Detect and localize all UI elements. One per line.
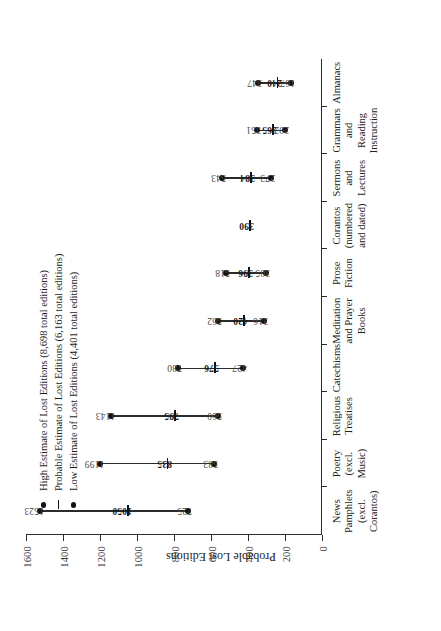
data-point-label: 562 — [207, 316, 222, 326]
y-axis-tick-label: 1400 — [58, 546, 69, 568]
data-point-label: 543 — [211, 173, 226, 183]
plot-area: 02004006008001000120014001600 1523105072… — [26, 59, 322, 535]
data-point-label: 420 — [233, 316, 248, 326]
data-point-label: 583 — [203, 459, 218, 469]
y-axis-tick-label: 1000 — [132, 546, 143, 568]
category-tick — [322, 248, 327, 249]
y-axis-tick: 600 — [211, 535, 212, 541]
data-point-label: 795 — [164, 411, 179, 421]
category-tick — [322, 106, 327, 107]
y-axis-title: Probable Lost Editions — [166, 549, 276, 564]
data-point-label: 1050 — [112, 506, 132, 516]
y-axis-tick-label: 1200 — [95, 546, 106, 568]
data-point-label: 576 — [205, 363, 220, 373]
data-point-label: 835 — [157, 459, 172, 469]
y-axis-tick: 0 — [322, 535, 323, 541]
category-label: Religious Treatises — [331, 392, 356, 440]
category-label: Meditation and Prayer Books — [331, 297, 368, 345]
category-label: Corantos (numbered and dated) — [331, 202, 368, 250]
data-point-label: 316 — [253, 316, 268, 326]
data-point-label: 305 — [255, 268, 270, 278]
data-point-label: 1523 — [24, 506, 44, 516]
category-label: Catechisms — [331, 345, 343, 393]
category-label: Almanacs — [331, 59, 343, 107]
data-point-label: 725 — [177, 506, 192, 516]
y-axis-tick: 1600 — [26, 535, 27, 541]
data-point-label: 1143 — [95, 411, 114, 421]
category-tick — [322, 201, 327, 202]
y-axis-tick-label: 200 — [280, 546, 291, 562]
y-axis-tick: 1200 — [100, 535, 101, 541]
data-point-label: 390 — [239, 221, 254, 231]
category-tick — [322, 486, 327, 487]
y-axis-tick-label: 1600 — [21, 546, 32, 568]
data-point-label: 384 — [240, 173, 255, 183]
data-point-label: 396 — [238, 268, 253, 278]
category-tick — [322, 296, 327, 297]
category-label: Grammars and Reading Instruction — [331, 107, 381, 155]
y-axis-tick: 1000 — [137, 535, 138, 541]
data-point-label: 273 — [261, 173, 276, 183]
data-point-label: 167 — [280, 78, 295, 88]
data-point-label: 202 — [274, 125, 289, 135]
rotated-figure-container: Probable Lost Editions High Estimate of … — [0, 0, 441, 631]
category-tick — [322, 344, 327, 345]
data-point-label: 560 — [208, 411, 223, 421]
category-tick — [322, 439, 327, 440]
y-axis-tick-label: 600 — [206, 546, 217, 562]
category-label: Poetry (excl. Music) — [331, 440, 368, 488]
category-tick — [322, 391, 327, 392]
y-axis-tick-label: 400 — [243, 546, 254, 562]
data-point-label: 518 — [215, 268, 230, 278]
y-axis-tick-label: 0 — [317, 546, 328, 551]
data-point-label: 347 — [247, 78, 262, 88]
category-label: Sermons and Lectures — [331, 154, 368, 202]
data-point-label: 427 — [232, 363, 247, 373]
y-axis-tick-label: 800 — [169, 546, 180, 562]
data-point-label: 780 — [167, 363, 182, 373]
category-tick — [322, 153, 327, 154]
y-axis-tick: 400 — [248, 535, 249, 541]
data-point-label: 351 — [246, 125, 261, 135]
category-label: Prose Fiction — [331, 249, 356, 297]
category-label: News Pamphlets (excl. Corantos) — [331, 487, 381, 535]
y-axis-tick: 800 — [174, 535, 175, 541]
data-point-label: 1199 — [85, 459, 104, 469]
category-axis-line — [321, 59, 322, 535]
chart-figure: Probable Lost Editions High Estimate of … — [0, 0, 441, 631]
y-axis-tick: 1400 — [63, 535, 64, 541]
y-axis-tick: 200 — [285, 535, 286, 541]
